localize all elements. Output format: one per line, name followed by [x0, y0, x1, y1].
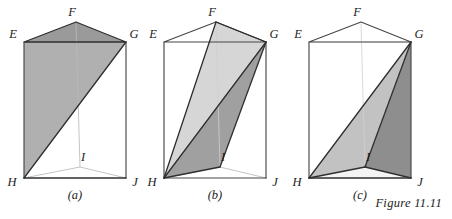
vertex-label-I-c: I — [365, 150, 371, 164]
vertex-label-E-a: E — [8, 27, 17, 41]
figure-caption: Figure 11.11 — [375, 196, 442, 211]
prism-figure-a: E F G H I J (a) — [0, 0, 150, 200]
panel-label-c: (c) — [353, 188, 367, 202]
vertex-label-J-b: J — [272, 175, 279, 189]
vertex-label-G-b: G — [269, 27, 278, 41]
vertex-label-G-a: G — [129, 27, 138, 41]
figure-plate: E F G H I J (a) E F G H I J (b) — [0, 0, 452, 219]
vertex-label-H-b: H — [146, 175, 157, 189]
panel-label-a: (a) — [68, 188, 83, 202]
prism-figure-b: E F G H I J (b) — [140, 0, 290, 200]
vertex-label-H-c: H — [291, 175, 302, 189]
edge-top-triangle-c — [309, 22, 411, 42]
vertex-label-J-a: J — [132, 175, 139, 189]
face-top-EFG-a — [24, 22, 126, 42]
vertex-label-F-b: F — [207, 5, 216, 19]
vertex-label-G-c: G — [414, 27, 423, 41]
vertex-label-I-a: I — [80, 150, 86, 164]
hidden-edges-bottom-a — [24, 167, 126, 178]
vertex-label-E-c: E — [293, 27, 302, 41]
vertex-label-I-b: I — [220, 150, 226, 164]
prism-figure-c: E F G H I J (c) — [285, 0, 435, 200]
vertex-label-F-c: F — [352, 5, 361, 19]
panel-label-b: (b) — [208, 188, 223, 202]
vertex-label-J-c: J — [417, 175, 424, 189]
vertex-label-E-b: E — [148, 27, 157, 41]
vertex-label-F-a: F — [67, 5, 76, 19]
vertex-label-H-a: H — [6, 175, 17, 189]
